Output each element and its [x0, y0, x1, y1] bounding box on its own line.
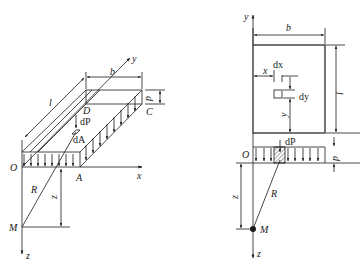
section-label-z: z: [256, 248, 261, 259]
plan-label-width: b: [286, 22, 291, 33]
plan-element: [274, 90, 282, 98]
length-dimension: [25, 78, 84, 137]
label-point: M: [8, 222, 18, 233]
label-corner-d: D: [82, 105, 91, 116]
load-arrows-front: [24, 154, 73, 166]
section-label-load: p: [329, 156, 340, 162]
label-load: p: [142, 96, 153, 102]
section-label-point: M: [259, 224, 269, 235]
plan-label-dx: dx: [273, 59, 283, 70]
point-m-marker: [250, 226, 256, 232]
distance-line: [22, 132, 76, 227]
plan-label-x: x: [262, 65, 268, 76]
label-point-load: dP: [80, 116, 91, 127]
load-arrows-side: [86, 96, 135, 160]
label-area-element: dA: [73, 134, 86, 145]
section-label-depth: z: [229, 195, 240, 200]
left-figure: y x z O A C D b l p dP dA R M z: [8, 53, 165, 261]
plan-label-dy: dy: [299, 91, 309, 102]
section-load-arrows: [256, 148, 318, 161]
plan-rectangle: [253, 45, 325, 133]
label-corner-a: A: [75, 172, 83, 183]
label-x: x: [136, 170, 142, 181]
section-label-point-load: dP: [285, 136, 296, 147]
right-figure: y b l x dx dy y dP O p R M z z: [229, 11, 360, 259]
label-y: y: [131, 53, 137, 64]
label-width: b: [110, 66, 115, 77]
section-label-distance: R: [270, 188, 277, 199]
label-distance: R: [30, 184, 37, 195]
diagram-canvas: y x z O A C D b l p dP dA R M z: [0, 0, 360, 267]
section-label-origin: O: [242, 149, 249, 160]
label-length: l: [49, 97, 52, 108]
label-origin: O: [10, 162, 17, 173]
plan-label-length: l: [334, 92, 345, 95]
plan-label-y: y: [243, 11, 249, 22]
label-corner-c: C: [146, 106, 153, 117]
label-depth: z: [48, 195, 59, 200]
load-block: [22, 90, 142, 167]
label-z: z: [25, 250, 30, 261]
plan-label-y-offset: y: [278, 112, 289, 118]
